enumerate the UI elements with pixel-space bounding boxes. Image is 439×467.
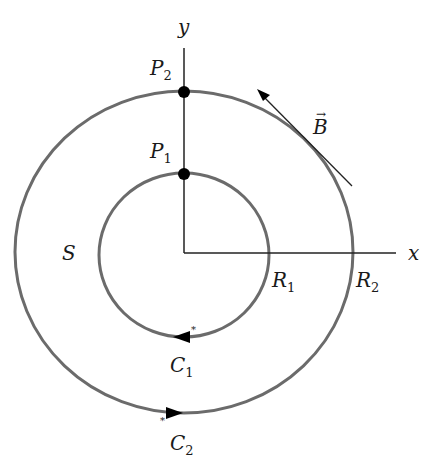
p2-label: P2 bbox=[149, 56, 172, 83]
y-axis-label: y bbox=[177, 15, 190, 39]
c2-label: C2 bbox=[170, 431, 194, 458]
c2-orientation-arrow bbox=[166, 407, 183, 419]
b-vector-line bbox=[262, 95, 352, 186]
c1-start-marker: * bbox=[191, 324, 196, 335]
p1-label: P1 bbox=[149, 139, 172, 166]
c1-label: C1 bbox=[170, 353, 194, 380]
b-vector-arrowhead bbox=[257, 89, 270, 101]
c2-start-marker: * bbox=[160, 415, 165, 426]
region-s-label: S bbox=[62, 241, 76, 265]
x-axis-label: x bbox=[408, 241, 419, 265]
c1-orientation-arrow bbox=[173, 331, 190, 343]
svg-text:→: → bbox=[316, 107, 326, 121]
diagram-canvas: * * y x P2 P1 B → S R1 R2 C1 C2 bbox=[0, 0, 439, 467]
r2-label: R2 bbox=[355, 268, 379, 295]
point-p1 bbox=[178, 168, 190, 180]
b-vector-label: B → bbox=[312, 107, 328, 139]
r1-label: R1 bbox=[271, 268, 295, 295]
point-p2 bbox=[178, 86, 190, 98]
